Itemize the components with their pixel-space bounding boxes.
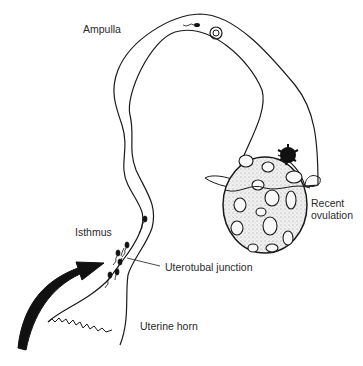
- label-ampulla: Ampulla: [83, 23, 121, 36]
- label-uterine-horn: Uterine horn: [140, 320, 198, 333]
- label-recent-ovulation-line2: ovulation: [311, 209, 353, 222]
- sperm-transport-arrow-icon: [18, 262, 104, 350]
- oocyte-icon: [210, 27, 222, 39]
- uterine-horn-edge: [48, 318, 112, 332]
- label-isthmus: Isthmus: [75, 226, 112, 239]
- diagram-drawing: [0, 0, 363, 366]
- label-uterotubal-junction: Uterotubal junction: [165, 261, 253, 274]
- sperm-icon-ampulla: [183, 23, 200, 27]
- oviduct-diagram: Ampulla Isthmus Uterotubal junction Uter…: [0, 0, 363, 366]
